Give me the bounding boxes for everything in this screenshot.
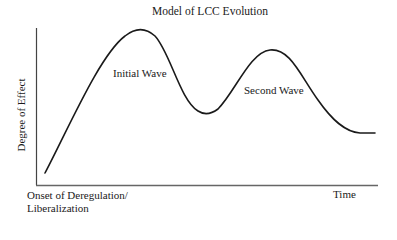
lcc-curve	[45, 30, 375, 173]
x-axis-label-left-line1: Onset of Deregulation/	[27, 189, 128, 201]
x-axis-label-left-line2: Liberalization	[27, 202, 89, 214]
initial-wave-label: Initial Wave	[113, 67, 167, 79]
y-axis-label: Degree of Effect	[15, 78, 27, 151]
second-wave-label: Second Wave	[244, 84, 304, 96]
x-axis-label-right: Time	[333, 188, 356, 200]
